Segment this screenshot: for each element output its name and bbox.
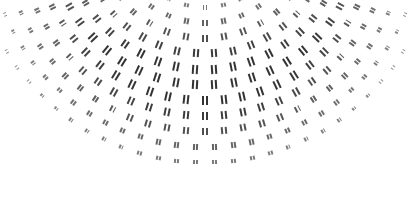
double-bar-mark-icon [373, 60, 379, 66]
double-bar-mark-icon [94, 77, 103, 86]
double-bar-mark-icon [193, 160, 198, 164]
double-bar-mark-icon [174, 142, 180, 148]
double-bar-mark-icon [27, 27, 33, 33]
double-bar-mark-icon [193, 144, 198, 150]
double-bar-mark-icon [257, 19, 265, 27]
double-bar-mark-icon [155, 155, 160, 160]
double-bar-mark-icon [183, 111, 190, 120]
double-bar-mark-icon [69, 34, 78, 43]
double-bar-mark-icon [221, 33, 228, 41]
double-bar-mark-icon [337, 53, 345, 61]
double-bar-mark-icon [84, 128, 90, 133]
double-bar-mark-icon [183, 18, 189, 24]
double-bar-mark-icon [320, 128, 326, 133]
double-bar-mark-icon [137, 150, 142, 155]
double-bar-mark-icon [70, 99, 77, 106]
double-bar-mark-icon [353, 4, 360, 11]
double-bar-mark-icon [11, 29, 16, 34]
double-bar-mark-icon [366, 43, 373, 50]
double-bar-mark-icon [192, 49, 199, 58]
double-bar-mark-icon [155, 40, 164, 50]
double-bar-mark-icon [361, 74, 367, 80]
double-bar-mark-icon [280, 39, 290, 49]
double-bar-mark-icon [278, 22, 287, 31]
double-bar-mark-icon [276, 113, 284, 121]
double-bar-mark-icon [351, 106, 357, 111]
double-bar-mark-icon [39, 93, 44, 98]
double-bar-mark-icon [229, 46, 237, 55]
double-bar-mark-icon [49, 58, 56, 65]
double-bar-mark-icon [333, 99, 340, 106]
double-bar-mark-icon [95, 60, 105, 70]
double-bar-mark-icon [238, 91, 246, 101]
double-bar-mark-icon [319, 48, 329, 58]
double-bar-mark-icon [154, 56, 163, 67]
double-bar-mark-icon [110, 87, 119, 96]
double-bar-mark-icon [111, 70, 121, 81]
double-bar-mark-icon [123, 22, 132, 31]
double-bar-mark-icon [98, 0, 105, 3]
double-bar-mark-icon [184, 3, 189, 8]
double-bar-mark-icon [172, 77, 180, 87]
double-bar-mark-icon [173, 46, 181, 55]
double-bar-mark-icon [88, 32, 98, 42]
double-bar-mark-icon [153, 72, 162, 83]
double-bar-mark-icon [165, 12, 172, 19]
double-bar-mark-icon [58, 19, 66, 27]
double-bar-mark-icon [101, 137, 107, 142]
double-bar-mark-icon [163, 124, 170, 132]
double-bar-mark-icon [377, 27, 383, 33]
double-bar-mark-icon [19, 10, 24, 16]
double-bar-mark-icon [289, 70, 299, 81]
double-bar-mark-icon [126, 113, 134, 121]
double-bar-mark-icon [378, 79, 383, 84]
double-bar-mark-icon [370, 7, 376, 13]
double-bar-mark-icon [257, 103, 265, 113]
double-bar-mark-icon [267, 134, 273, 141]
double-bar-mark-icon [308, 77, 317, 86]
double-bar-mark-icon [62, 72, 69, 79]
halftone-fan-pattern [0, 0, 410, 211]
double-bar-mark-icon [92, 14, 101, 23]
double-bar-mark-icon [3, 12, 7, 17]
double-bar-mark-icon [386, 10, 391, 16]
double-bar-mark-icon [202, 128, 208, 135]
double-bar-mark-icon [343, 19, 351, 27]
double-bar-mark-icon [76, 84, 84, 92]
double-bar-mark-icon [146, 19, 154, 27]
double-bar-mark-icon [4, 49, 8, 54]
double-bar-mark-icon [301, 119, 308, 126]
double-bar-mark-icon [203, 5, 208, 9]
double-bar-mark-icon [336, 2, 345, 10]
double-bar-mark-icon [144, 119, 151, 127]
double-bar-mark-icon [145, 103, 153, 113]
double-bar-mark-icon [109, 105, 117, 113]
double-bar-mark-icon [310, 95, 318, 103]
double-bar-mark-icon [81, 48, 91, 58]
double-bar-mark-icon [183, 127, 189, 135]
double-bar-mark-icon [212, 160, 217, 164]
double-bar-mark-icon [15, 65, 20, 70]
double-bar-mark-icon [183, 95, 190, 105]
double-bar-mark-icon [202, 96, 208, 105]
double-bar-mark-icon [65, 53, 73, 61]
double-bar-mark-icon [230, 142, 236, 148]
double-bar-mark-icon [163, 107, 171, 116]
double-bar-mark-icon [137, 134, 143, 141]
double-bar-mark-icon [264, 48, 274, 59]
double-bar-mark-icon [309, 14, 318, 23]
double-bar-mark-icon [211, 64, 218, 73]
double-bar-mark-icon [167, 0, 173, 2]
double-bar-mark-icon [136, 48, 146, 59]
double-bar-mark-icon [138, 32, 147, 41]
double-bar-mark-icon [117, 0, 124, 1]
double-bar-mark-icon [20, 45, 25, 51]
double-bar-mark-icon [221, 3, 226, 8]
double-bar-mark-icon [230, 77, 238, 87]
double-bar-mark-icon [56, 87, 62, 93]
double-bar-mark-icon [37, 43, 44, 50]
double-bar-mark-icon [320, 0, 328, 7]
double-bar-mark-icon [119, 144, 125, 149]
double-bar-mark-icon [246, 40, 255, 50]
double-bar-mark-icon [92, 95, 100, 103]
